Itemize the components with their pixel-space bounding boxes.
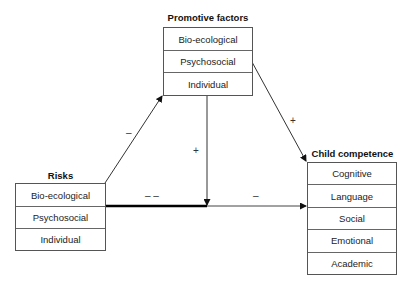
competence-row-cognitive: Cognitive [308, 163, 396, 185]
promotive-factors-title: Promotive factors [163, 12, 253, 23]
competence-row-language: Language [308, 185, 396, 207]
arrow-promotive-to-competence [252, 62, 306, 161]
sign-promotive-to-competence: + [290, 115, 296, 126]
risks-title: Risks [15, 170, 106, 181]
child-competence-title: Child competence [305, 148, 400, 159]
promotive-factors-box: Bio-ecological Psychosocial Individual [163, 27, 253, 96]
sign-path-to-competence: – [253, 190, 259, 201]
child-competence-box: Cognitive Language Social Emotional Acad… [307, 162, 397, 275]
competence-row-emotional: Emotional [308, 230, 396, 252]
risks-row-individual: Individual [16, 229, 105, 250]
competence-row-social: Social [308, 208, 396, 230]
promotive-row-individual: Individual [164, 73, 252, 95]
risks-box: Bio-ecological Psychosocial Individual [15, 183, 106, 251]
diagram-canvas: Promotive factors Bio-ecological Psychos… [0, 0, 412, 290]
promotive-row-psychosocial: Psychosocial [164, 51, 252, 73]
competence-row-academic: Academic [308, 253, 396, 274]
sign-risks-to-promotive: – [126, 127, 132, 138]
risks-row-psychosocial: Psychosocial [16, 207, 105, 229]
sign-risks-direct-strong: – – [145, 190, 159, 201]
risks-row-bio-ecological: Bio-ecological [16, 184, 105, 207]
promotive-row-bio-ecological: Bio-ecological [164, 28, 252, 51]
arrow-risks-to-promotive [105, 96, 162, 183]
sign-promotive-to-path: + [193, 145, 199, 156]
